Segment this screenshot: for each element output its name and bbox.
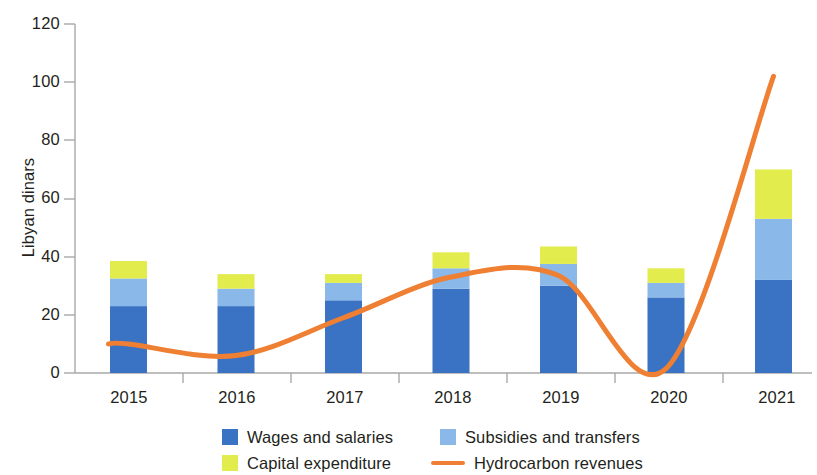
- bar-segment-capital-2018[interactable]: [433, 252, 470, 268]
- bar-segment-subsidies-2021[interactable]: [755, 219, 792, 280]
- legend-label-capital: Capital expenditure: [247, 454, 391, 473]
- bar-segment-capital-2019[interactable]: [540, 246, 577, 263]
- bar-segment-subsidies-2017[interactable]: [325, 283, 362, 300]
- bar-segment-subsidies-2020[interactable]: [648, 283, 685, 298]
- legend-item-capital[interactable]: Capital expenditure: [222, 454, 440, 473]
- legend-swatch-wages: [222, 429, 238, 445]
- chart-container: Libyan dinars 120 100 80 60 40 20 0 2015…: [0, 0, 817, 475]
- bar-group-2019[interactable]: [540, 246, 577, 373]
- bar-segment-capital-2021[interactable]: [755, 169, 792, 218]
- legend-item-hydrocarbon[interactable]: Hydrocarbon revenues: [440, 454, 740, 473]
- bar-segment-wages-2020[interactable]: [648, 297, 685, 373]
- bar-segment-capital-2016[interactable]: [218, 274, 255, 289]
- legend-item-subsidies[interactable]: Subsidies and transfers: [440, 428, 740, 447]
- bar-group-2018[interactable]: [433, 252, 470, 373]
- bar-segment-wages-2015[interactable]: [110, 306, 147, 373]
- legend-label-subsidies: Subsidies and transfers: [465, 428, 640, 447]
- bar-segment-wages-2019[interactable]: [540, 286, 577, 373]
- legend-label-hydrocarbon: Hydrocarbon revenues: [474, 454, 643, 473]
- bar-segment-subsidies-2016[interactable]: [218, 289, 255, 306]
- bar-segment-capital-2020[interactable]: [648, 268, 685, 283]
- bar-group-2015[interactable]: [110, 261, 147, 373]
- bar-group-2020[interactable]: [648, 268, 685, 373]
- legend-swatch-hydrocarbon: [431, 461, 465, 466]
- bar-segment-capital-2015[interactable]: [110, 261, 147, 278]
- bar-group-2021[interactable]: [755, 169, 792, 373]
- legend-item-wages[interactable]: Wages and salaries: [222, 428, 440, 447]
- bar-segment-wages-2021[interactable]: [755, 280, 792, 373]
- bar-segment-wages-2016[interactable]: [218, 306, 255, 373]
- bar-segment-capital-2017[interactable]: [325, 274, 362, 283]
- legend-label-wages: Wages and salaries: [247, 428, 393, 447]
- bars-layer: [110, 169, 792, 373]
- legend-swatch-subsidies: [440, 429, 456, 445]
- plot-area: [0, 0, 817, 475]
- legend-swatch-capital: [222, 455, 238, 471]
- bar-segment-subsidies-2015[interactable]: [110, 278, 147, 306]
- bar-segment-wages-2018[interactable]: [433, 289, 470, 373]
- chart-legend: Wages and salaries Subsidies and transfe…: [222, 424, 802, 475]
